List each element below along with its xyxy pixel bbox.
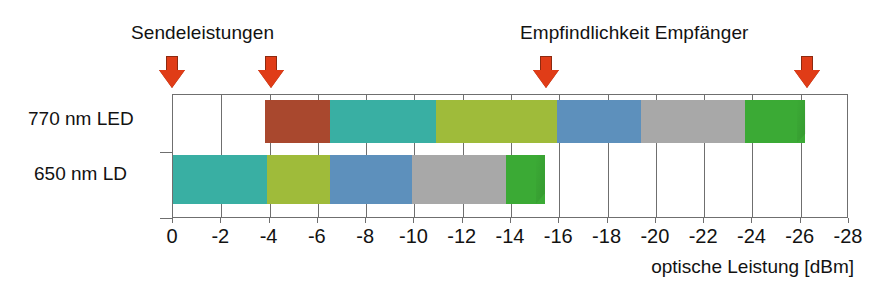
tick-mark--16 (558, 218, 559, 223)
arrow-shaft (540, 56, 552, 71)
tick-mark-0 (172, 218, 173, 223)
bar-segment-gray (641, 100, 745, 143)
row-baseline-tick (160, 218, 172, 219)
chart-plot-area (172, 94, 848, 218)
arrow-shaft (265, 56, 277, 71)
tick-label--24: -24 (737, 225, 766, 248)
tick-label--4: -4 (260, 225, 278, 248)
arrow-down-icon-sensitivity-led (794, 56, 820, 88)
tick-mark--24 (751, 218, 752, 223)
arrow-down-icon-transmit-led (159, 56, 185, 88)
tick-label--2: -2 (211, 225, 229, 248)
bar-segment-olive (267, 155, 330, 204)
tick-label--22: -22 (689, 225, 718, 248)
tick-mark--10 (413, 218, 414, 223)
arrow-down-icon-sensitivity-ld (533, 56, 559, 88)
bar-segment-red (265, 100, 330, 143)
tick-label--14: -14 (496, 225, 525, 248)
tick-label--12: -12 (447, 225, 476, 248)
bar-770nm-led (265, 100, 806, 143)
tick-label--26: -26 (785, 225, 814, 248)
tick-label--16: -16 (544, 225, 573, 248)
bar-segment-olive (436, 100, 557, 143)
arrow-head (159, 70, 185, 88)
bar-segment-green (745, 100, 805, 143)
arrow-head (258, 70, 284, 88)
tick-label--10: -10 (399, 225, 428, 248)
tick-mark--8 (365, 218, 366, 223)
tick-mark--12 (462, 218, 463, 223)
arrow-head (533, 70, 559, 88)
tick-label--8: -8 (356, 225, 374, 248)
bar-segment-blue (557, 100, 642, 143)
arrow-head (794, 70, 820, 88)
tick-mark--6 (317, 218, 318, 223)
bar-segment-gray (412, 155, 506, 204)
tick-mark--2 (220, 218, 221, 223)
tick-label--20: -20 (640, 225, 669, 248)
tick-label-0: 0 (166, 225, 177, 248)
tick-mark--26 (800, 218, 801, 223)
tick-label--18: -18 (592, 225, 621, 248)
tick-mark--28 (848, 218, 849, 223)
x-axis-title: optische Leistung [dBm] (651, 256, 854, 278)
arrow-shaft (166, 56, 178, 71)
tick-label--6: -6 (308, 225, 326, 248)
bar-650nm-ld (173, 155, 545, 204)
tick-mark--20 (655, 218, 656, 223)
x-axis: 0-2-4-6-8-10-12-14-16-18-20-22-24-26-28 (172, 218, 848, 258)
bar-segment-teal (330, 100, 436, 143)
row-label-650nm-ld: 650 nm LD (34, 163, 127, 185)
arrow-shaft (801, 56, 813, 71)
tick-mark--18 (607, 218, 608, 223)
bar-segment-teal (173, 155, 267, 204)
arrow-down-icon-transmit-ld (258, 56, 284, 88)
tick-label--28: -28 (834, 225, 863, 248)
receiver-sensitivity-annotation-label: Empfindlichkeit Empfänger (520, 22, 749, 44)
transmit-power-annotation-label: Sendeleistungen (131, 22, 274, 44)
tick-mark--4 (269, 218, 270, 223)
tick-mark--14 (510, 218, 511, 223)
tick-mark--22 (703, 218, 704, 223)
bar-segment-blue (330, 155, 412, 204)
row-divider-tick (160, 152, 172, 153)
row-label-770nm-led: 770 nm LED (28, 108, 134, 130)
